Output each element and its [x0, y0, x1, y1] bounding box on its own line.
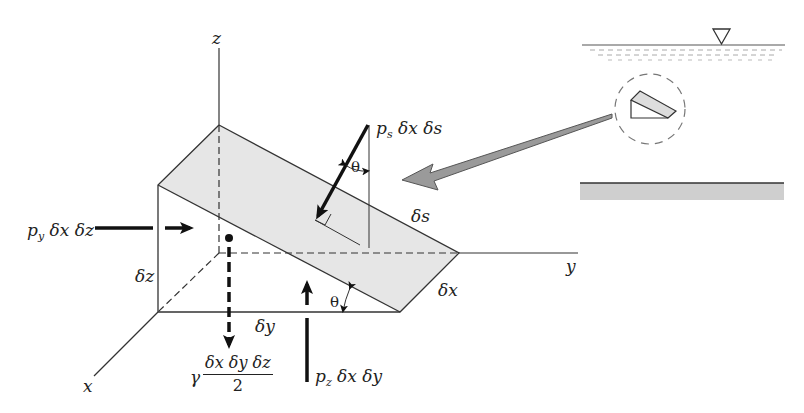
wedge-diagram: [0, 0, 804, 413]
inset-bottom: [580, 183, 784, 200]
dz-label: δz: [135, 268, 154, 285]
theta-top-label: θ: [351, 160, 360, 175]
free-surface-triangle-icon: [713, 29, 730, 44]
centroid-dot: [225, 234, 233, 242]
pz-force-label: pz δx δy: [315, 368, 382, 388]
x-axis: [94, 312, 158, 376]
ds-label: δs: [411, 208, 430, 225]
ps-force-label: ps δx δs: [376, 120, 442, 140]
x-axis-label: x: [83, 378, 93, 395]
dy-label: δy: [255, 318, 275, 335]
theta-bottom-arc: [343, 288, 350, 311]
y-axis-label: y: [566, 258, 576, 275]
x-axis-hidden: [158, 253, 219, 312]
weight-numerator: δx δy δz: [203, 355, 273, 375]
weight-gamma: γ: [190, 369, 200, 386]
weight-fraction: δx δy δz 2: [203, 355, 273, 394]
py-force-label: py δx δz: [27, 222, 94, 242]
inset-wedge-face: [631, 91, 676, 118]
theta-bottom-label: θ: [330, 295, 339, 310]
z-axis-label: z: [212, 30, 221, 47]
dx-label: δx: [438, 282, 458, 299]
weight-denominator: 2: [203, 375, 273, 394]
